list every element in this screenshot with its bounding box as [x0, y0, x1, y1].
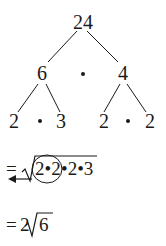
tree-leaf-2-right-a: 2	[99, 111, 109, 131]
branch-24-to-4	[87, 31, 118, 62]
branch-6-to-3	[46, 84, 60, 112]
branch-6-to-2	[18, 84, 38, 112]
tree-connectors	[0, 0, 166, 246]
multiply-dot-right	[126, 119, 130, 123]
factor-tree-diagram: 24 6 4 2 3 2 2 = 2•2 •2•3 = 2 6	[0, 0, 166, 246]
step1-equals: =	[6, 159, 17, 179]
step2-equals: =	[6, 215, 17, 235]
tree-node-4: 4	[118, 63, 128, 83]
branch-4-to-2a	[104, 84, 120, 112]
step2-coefficient: 2	[20, 215, 30, 235]
tree-node-6: 6	[37, 63, 47, 83]
step1-radicand-rest: •2•3	[61, 159, 93, 179]
step2-radicand: 6	[39, 215, 49, 235]
branch-4-to-2b	[127, 84, 146, 112]
tree-leaf-3: 3	[56, 111, 66, 131]
tree-leaf-2-left: 2	[9, 111, 19, 131]
branch-24-to-6	[48, 31, 77, 62]
multiply-dot-level1	[81, 72, 85, 76]
tree-leaf-2-right-b: 2	[145, 111, 155, 131]
tree-node-root: 24	[73, 12, 93, 32]
multiply-dot-left	[38, 119, 42, 123]
step1-radicand-circled: 2•2	[35, 159, 61, 179]
